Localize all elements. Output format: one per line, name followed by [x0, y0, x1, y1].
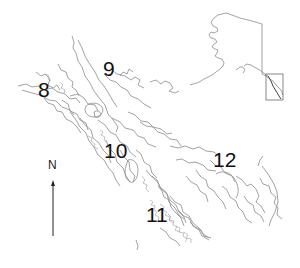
region-label-10: 10 — [104, 140, 127, 161]
region-label-12: 12 — [213, 149, 236, 170]
region-label-9: 9 — [103, 58, 115, 79]
inset-alaska-map — [190, 13, 283, 100]
north-arrow — [51, 180, 55, 236]
north-label: N — [48, 159, 57, 171]
region-label-11: 11 — [146, 204, 168, 225]
alaska-outline — [190, 13, 283, 95]
region-label-8: 8 — [38, 79, 50, 100]
southeast-alaska-map — [0, 0, 300, 268]
